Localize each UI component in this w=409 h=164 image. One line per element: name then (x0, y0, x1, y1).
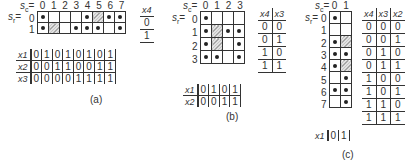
empty-cell (60, 23, 71, 34)
dont-care-cell (212, 25, 223, 38)
column-header: x4 (258, 8, 272, 21)
dont-care-cell (341, 60, 352, 72)
column-label: 3 (237, 1, 243, 11)
table-cell: 0 (42, 61, 53, 73)
empty-cell (223, 51, 234, 64)
marked-cell (234, 25, 245, 38)
dont-care-cell (341, 36, 352, 48)
table-cell: 0 (73, 61, 84, 73)
marked-cell (104, 12, 115, 23)
marked-cell (201, 38, 212, 51)
x4-x3-x2-table: x4x3x2000001010011100101110111 (362, 8, 405, 125)
empty-cell (330, 96, 341, 108)
dot-icon (204, 55, 208, 59)
table-cell: 0 (31, 49, 42, 61)
table-cell: 1 (73, 73, 84, 85)
dot-icon (344, 76, 348, 80)
table-cell: 0 (391, 99, 405, 112)
row-label: 7 (321, 100, 327, 110)
table-cell: 0 (73, 49, 84, 61)
table-cell: 1 (84, 49, 95, 61)
marked-cell (234, 38, 245, 51)
table-cell: 0 (362, 34, 376, 47)
table-cell: 0 (362, 47, 376, 60)
dot-icon (333, 40, 337, 44)
dot-icon (204, 29, 208, 33)
table-cell: 0 (376, 73, 391, 86)
table-cell: 0 (376, 21, 391, 34)
table-cell: 1 (362, 99, 376, 112)
table-cell: 0 (258, 34, 272, 47)
table-cell: 1 (376, 112, 391, 125)
kmap-grid-b (200, 11, 245, 64)
table-cell: 0 (31, 61, 42, 73)
table-cell: 0 (362, 60, 376, 73)
empty-cell (330, 72, 341, 84)
table-cell: 1 (376, 60, 391, 73)
input-table-a: x101010101x200110011x300001111 (16, 49, 116, 84)
marked-cell (341, 48, 352, 60)
dot-icon (74, 26, 78, 30)
table-cell: 1 (105, 49, 116, 61)
column-label: 3 (74, 1, 80, 11)
marked-cell (341, 96, 352, 108)
variable-label: x1 (313, 130, 328, 141)
dot-icon (344, 100, 348, 104)
table-cell: 1 (362, 86, 376, 99)
marked-cell (330, 12, 341, 24)
dot-icon (204, 42, 208, 46)
marked-cell (212, 51, 223, 64)
empty-cell (212, 12, 223, 25)
empty-cell (104, 23, 115, 34)
dot-icon (85, 15, 89, 19)
table-cell: 1 (219, 96, 230, 108)
dot-icon (237, 55, 241, 59)
table-cell: 1 (391, 86, 405, 99)
table-cell: 1 (230, 96, 241, 108)
table-cell: 0 (31, 73, 42, 85)
empty-cell (341, 24, 352, 36)
row-label: 0 (29, 14, 35, 24)
dont-care-cell (93, 12, 104, 23)
dot-icon (333, 16, 337, 20)
input-table-b: x10101x20011 (183, 84, 241, 107)
empty-cell (223, 12, 234, 25)
empty-cell (341, 12, 352, 24)
table-cell: 1 (209, 84, 220, 96)
x4-x3-table: x4x300011011 (258, 8, 286, 73)
table-cell: 0 (52, 73, 63, 85)
table-cell: 0 (94, 49, 105, 61)
marked-cell (330, 36, 341, 48)
row-label: 4 (321, 63, 327, 73)
variable-label: x2 (16, 61, 31, 73)
table-cell: 0 (391, 21, 405, 34)
dot-icon (118, 15, 122, 19)
table-cell: 0 (63, 73, 74, 85)
dot-icon (118, 26, 122, 30)
table-cell: 1 (362, 73, 376, 86)
row-label: 6 (321, 88, 327, 98)
input-table-c: x101 (313, 130, 350, 141)
row-label: 3 (321, 51, 327, 61)
dot-icon (41, 26, 45, 30)
dot-icon (107, 15, 111, 19)
table-cell: 1 (376, 99, 391, 112)
dot-icon (85, 26, 89, 30)
table-cell: 0 (272, 47, 286, 60)
marked-cell (234, 51, 245, 64)
row-label: 1 (29, 25, 35, 35)
sr-label: sr= (172, 13, 185, 27)
table-cell: 0 (376, 86, 391, 99)
row-label: 0 (192, 15, 198, 25)
empty-cell (60, 12, 71, 23)
empty-cell (234, 12, 245, 25)
table-cell: 1 (84, 73, 95, 85)
table-cell: 0 (198, 96, 209, 108)
caption-a: (a) (90, 94, 102, 105)
marked-cell (38, 23, 49, 34)
table-cell: 1 (52, 61, 63, 73)
row-label: 2 (321, 39, 327, 49)
dont-care-cell (212, 38, 223, 51)
table-cell: 0 (258, 21, 272, 34)
table-cell: 0 (328, 130, 339, 141)
